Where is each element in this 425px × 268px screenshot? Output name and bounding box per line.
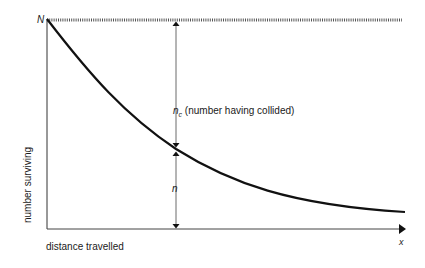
x-axis-arrowhead-icon xyxy=(399,224,406,234)
y-axis-label: number surviving xyxy=(22,147,33,223)
diagram-canvas xyxy=(0,0,425,268)
n-arrowhead-bottom-icon xyxy=(173,224,180,229)
label-n: n xyxy=(172,184,178,194)
nc-subscript: c xyxy=(179,111,183,118)
label-nc: nc (number having collided) xyxy=(173,106,294,118)
label-x: x xyxy=(399,238,404,247)
nc-description: (number having collided) xyxy=(185,105,295,116)
n-arrowhead-top-icon xyxy=(173,152,180,157)
label-N: N xyxy=(37,15,44,25)
x-axis-label: distance travelled xyxy=(46,242,124,252)
nc-arrowhead-top-icon xyxy=(173,22,180,27)
